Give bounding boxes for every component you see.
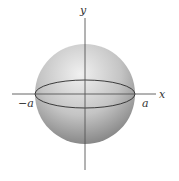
pos-a-label: a: [142, 97, 149, 110]
sphere-figure: y x −a a: [0, 0, 179, 181]
x-axis-label: x: [159, 88, 166, 101]
sphere-diagram: y x −a a: [0, 0, 179, 181]
y-axis-label: y: [79, 4, 87, 17]
neg-a-label: −a: [18, 97, 34, 110]
